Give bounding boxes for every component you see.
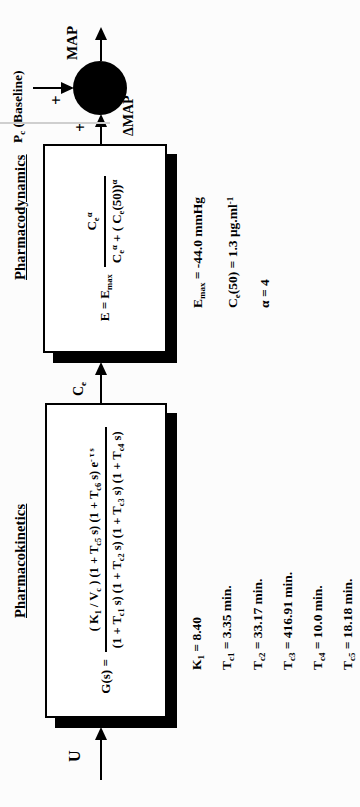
pd-parameter-ce50: Ce(50) = 1.3 μg.ml-1 [216,197,251,308]
pk-parameter-list: K1 = 8.40 Tc1 = 3.35 min. Tc2 = 33.17 mi… [184,572,360,670]
effect-site-concentration-label: Ce [71,382,88,396]
pk-parameter-tc1: Tc1 = 3.35 min. [214,572,244,670]
map-output-arrow [100,39,102,61]
pk-parameter-tc5: Tc5 = 18.18 min. [335,572,360,670]
pk-parameter-tc3: Tc3 = 416.91 min. [275,572,305,670]
pharmacodynamics-block: E = Emax Ceα Ceα + ( Ce(50))α [43,144,167,353]
pd-formula-numerator: Ceα [84,209,101,235]
pharmacokinetics-block: G(s) = ( K1 / Vc ) (1 + Tc5 s) (1 + Tc6 … [45,403,167,718]
pd-formula-denominator: Ceα + ( Ce(50))α [109,176,126,267]
pharmacodynamics-heading: Pharmacodynamics [12,154,29,280]
pk-formula-lhs: G(s) = [98,659,114,694]
pd-effect-equation: E = Emax Ceα Ceα + ( Ce(50))α [84,176,125,321]
fraction-bar [105,427,107,652]
pd-parameter-emax: Emax = -44.0 mmHg [184,197,216,308]
pk-parameter-k1: K1 = 8.40 [184,572,214,670]
input-arrow [100,739,102,780]
baseline-pressure-label: Pc (Baseline) [10,70,27,143]
pd-formula-lhs: E = Emax [97,274,114,321]
pd-parameter-alpha: α = 4 [251,197,279,308]
map-output-label: MAP [64,26,81,60]
input-signal-label: U [66,750,84,762]
pk-parameter-tc4: Tc4 = 10.0 min. [305,572,335,670]
pk-transfer-function: G(s) = ( K1 / Vc ) (1 + Tc5 s) (1 + Tc6 … [87,427,125,693]
pk-parameter-tc2: Tc2 = 33.17 min. [245,572,275,670]
summing-junction-circle [73,61,127,115]
scan-artifact-line [0,122,110,124]
pk-formula-fraction: ( K1 / Vc ) (1 + Tc5 s) (1 + Tc6 s) e- τ… [87,427,125,652]
pk-formula-numerator: ( K1 / Vc ) (1 + Tc5 s) (1 + Tc6 s) e- τ… [87,444,103,635]
plus-sign-baseline: + [47,95,67,105]
pharmacokinetics-heading: Pharmacokinetics [12,504,29,618]
pd-formula-fraction: Ceα Ceα + ( Ce(50))α [84,176,125,267]
baseline-arrow [33,87,62,89]
pd-parameter-list: Emax = -44.0 mmHg Ce(50) = 1.3 μg.ml-1 α… [184,197,279,308]
effect-site-arrow [100,374,102,403]
fraction-bar [104,176,106,267]
delta-map-arrow [100,126,102,145]
pk-formula-denominator: (1 + Tc1 s) (1 + Tc2 s) (1 + Tc3 s) (1 +… [110,427,126,652]
